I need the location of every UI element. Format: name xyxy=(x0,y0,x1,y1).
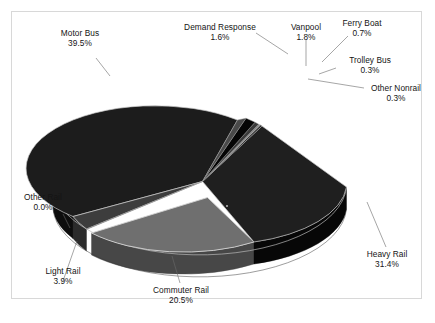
slice-label-ferry-boat-name: Ferry Boat xyxy=(334,18,390,28)
leader-line-other-nonrail xyxy=(308,79,364,88)
slice-label-light-rail-pct: 3.9% xyxy=(32,276,94,286)
slice-label-vanpool: Vanpool 1.8% xyxy=(282,22,330,42)
slice-label-vanpool-name: Vanpool xyxy=(282,22,330,32)
slice-label-motor-bus-pct: 39.5% xyxy=(44,38,116,48)
slice-label-other-rail-name: Other Rail xyxy=(12,192,74,202)
slice-label-trolley-bus-name: Trolley Bus xyxy=(340,55,400,65)
slice-label-commuter-rail-name: Commuter Rail xyxy=(140,285,222,295)
slice-label-commuter-rail-pct: 20.5% xyxy=(140,295,222,305)
pie-chart-figure: Motor Bus 39.5% Demand Response 1.6% Van… xyxy=(0,0,435,323)
leader-line-heavy-rail xyxy=(367,202,386,247)
slice-label-other-nonrail-name: Other Nonrail xyxy=(362,83,430,93)
slice-label-ferry-boat-pct: 0.7% xyxy=(334,28,390,38)
slice-label-other-nonrail: Other Nonrail 0.3% xyxy=(362,83,430,103)
slice-label-ferry-boat: Ferry Boat 0.7% xyxy=(334,18,390,38)
slice-label-vanpool-pct: 1.8% xyxy=(282,32,330,42)
slice-label-motor-bus: Motor Bus 39.5% xyxy=(44,28,116,48)
slice-label-demand-response: Demand Response 1.6% xyxy=(168,22,272,42)
slice-label-other-rail: Other Rail 0.0% xyxy=(12,192,74,212)
slice-label-demand-response-name: Demand Response xyxy=(168,22,272,32)
leader-line-trolley-bus xyxy=(319,68,336,74)
slice-label-other-rail-pct: 0.0% xyxy=(12,202,74,212)
slice-label-trolley-bus: Trolley Bus 0.3% xyxy=(340,55,400,75)
slice-label-light-rail-name: Light Rail xyxy=(32,266,94,276)
slice-label-light-rail: Light Rail 3.9% xyxy=(32,266,94,286)
leader-line-motor-bus xyxy=(96,58,110,76)
slice-label-other-nonrail-pct: 0.3% xyxy=(362,93,430,103)
slice-label-heavy-rail-name: Heavy Rail xyxy=(356,249,418,259)
slice-label-heavy-rail: Heavy Rail 31.4% xyxy=(356,249,418,269)
slice-label-commuter-rail: Commuter Rail 20.5% xyxy=(140,285,222,305)
slice-label-demand-response-pct: 1.6% xyxy=(168,32,272,42)
pie-center-marker xyxy=(226,205,228,207)
slice-label-motor-bus-name: Motor Bus xyxy=(44,28,116,38)
slice-label-heavy-rail-pct: 31.4% xyxy=(356,259,418,269)
slice-label-trolley-bus-pct: 0.3% xyxy=(340,65,400,75)
